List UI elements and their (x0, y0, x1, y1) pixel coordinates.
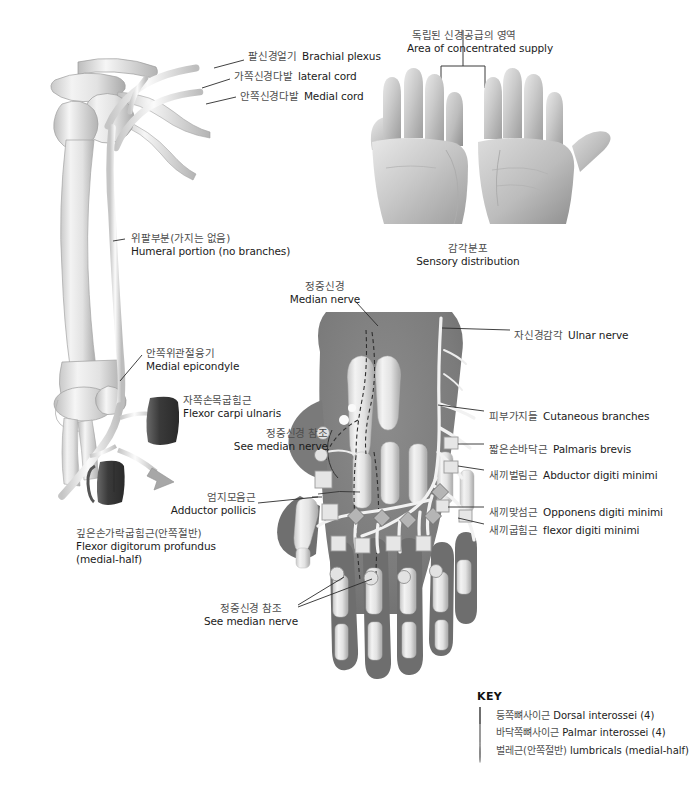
sensory-distribution-hands (371, 30, 611, 224)
label-see-median-nerve-lower: 정중신경 참조 See median nerve (203, 602, 299, 628)
label-sensory-distribution: 감각분포 Sensory distribution (412, 242, 524, 268)
arm-illustration (51, 58, 210, 505)
palmar-interossei-markers (315, 437, 472, 553)
label-area-of-concentrated-supply: 독립된 신경공급의 영역 Area of concentrated supply (407, 29, 521, 55)
lumbrical-markers (315, 427, 443, 586)
label-see-median-nerve-upper: 정중신경 참조 See median nerve (218, 427, 328, 453)
label-lateral-cord: 가쪽신경다발 lateral cord (234, 65, 357, 85)
hand-nerve-map (277, 312, 477, 679)
legend-item-dorsal-interossei: 등쪽뼈사이근 Dorsal interossei (4) (477, 708, 677, 721)
label-palmaris-brevis: 짧은손바닥근 Palmaris brevis (489, 438, 631, 458)
legend-title: KEY (477, 690, 677, 703)
label-ulnar-nerve: 자신경감각 Ulnar nerve (514, 324, 628, 344)
label-flexor-carpi-ulnaris: 자쪽손목굽힘근 Flexor carpi ulnaris (183, 394, 281, 420)
square-marker (477, 725, 490, 738)
label-humeral-portion: 위팔부분(가지는 없음) Humeral portion (no branche… (131, 232, 290, 258)
legend-item-lumbricals: 벌레근(안쪽절반) lumbricals (medial-half) (477, 743, 677, 756)
legend-label-palmar-interossei: 바닥쪽뼈사이근 Palmar interossei (4) (496, 724, 666, 739)
label-flexor-digitorum-profundus: 깊은손가락굽힘근(안쪽절반) Flexor digitorum profundu… (76, 527, 216, 565)
label-opponens-digiti-minimi: 새끼맞섬근 Opponens digiti minimi (489, 501, 663, 521)
label-brachial-plexus: 팔신경얼기 Brachial plexus (248, 45, 381, 65)
label-flexor-digiti-minimi: 새끼굽힘근 flexor digiti minimi (489, 519, 639, 539)
key-legend: KEY 등쪽뼈사이근 Dorsal interossei (4) 바닥쪽뼈사이근… (477, 690, 677, 756)
label-medial-epicondyle: 안쪽위관절융기 Medial epicondyle (146, 347, 239, 373)
label-cutaneous-branches: 피부가지들 Cutaneous branches (489, 405, 649, 425)
label-abductor-digiti-minimi: 새끼벌림근 Abductor digiti minimi (489, 464, 657, 484)
label-median-nerve: 정중신경 Median nerve (288, 280, 362, 306)
legend-label-dorsal-interossei: 등쪽뼈사이근 Dorsal interossei (4) (496, 707, 654, 722)
leader-lines (113, 60, 510, 607)
dorsal-interossei-markers (348, 484, 449, 529)
label-adductor-pollicis: 엄지모음근 Adductor pollicis (160, 491, 256, 517)
legend-item-palmar-interossei: 바닥쪽뼈사이근 Palmar interossei (4) (477, 725, 677, 738)
legend-label-lumbricals: 벌레근(안쪽절반) lumbricals (medial-half) (496, 742, 689, 757)
diamond-marker (477, 708, 490, 721)
label-medial-cord: 안쪽신경다발 Medial cord (240, 85, 364, 105)
circle-marker (477, 743, 490, 756)
